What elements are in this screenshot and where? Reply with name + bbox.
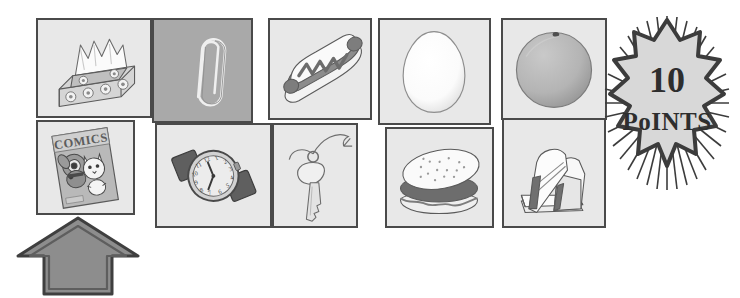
egg-icon xyxy=(380,20,489,123)
panel-label: paper clip xyxy=(154,121,155,122)
hot-dog-icon xyxy=(270,20,370,118)
panel-orange[interactable]: orange xyxy=(501,18,607,120)
panel-hamburger[interactable]: hamburger xyxy=(385,127,494,228)
points-badge[interactable]: 10 PoINTS xyxy=(596,14,738,192)
panel-tissue-box[interactable]: tissue box xyxy=(36,18,152,118)
hamburger-icon xyxy=(387,129,492,226)
paper-clip-icon xyxy=(154,20,251,121)
up-arrow[interactable] xyxy=(14,214,142,298)
panel-paper-clip[interactable]: paper clip xyxy=(152,18,253,123)
up-arrow-icon xyxy=(14,214,142,298)
panel-key[interactable]: key xyxy=(272,123,358,228)
panel-label: hamburger xyxy=(387,226,388,227)
panel-label: egg xyxy=(380,123,381,124)
panel-hot-dog[interactable]: hot dog xyxy=(268,18,372,120)
comic-book-icon: COMICS xyxy=(38,122,133,213)
panel-comic-book[interactable]: COMICS xyxy=(36,120,135,215)
key-icon xyxy=(274,125,356,226)
tissue-box-icon xyxy=(38,20,150,116)
panel-label: key xyxy=(274,226,275,227)
badge-unit: PoINTS xyxy=(622,108,711,135)
panel-sandwich[interactable]: sandwich xyxy=(502,118,606,228)
worksheet-canvas: tissue box paper clip xyxy=(0,0,740,298)
panel-label: sandwich xyxy=(504,226,505,227)
panel-wrist-watch[interactable]: 1212 345 678 91011 wrist watch xyxy=(155,123,272,228)
badge-number: 10 xyxy=(649,60,685,100)
panel-label: tissue box xyxy=(38,116,39,117)
orange-icon xyxy=(503,20,605,118)
panel-egg[interactable]: egg xyxy=(378,18,491,125)
panel-label: hot dog xyxy=(270,118,271,119)
panel-label: wrist watch xyxy=(157,226,158,227)
points-badge-icon: 10 PoINTS xyxy=(596,14,738,192)
sandwich-icon xyxy=(504,120,604,226)
wrist-watch-icon: 1212 345 678 91011 xyxy=(157,125,270,226)
